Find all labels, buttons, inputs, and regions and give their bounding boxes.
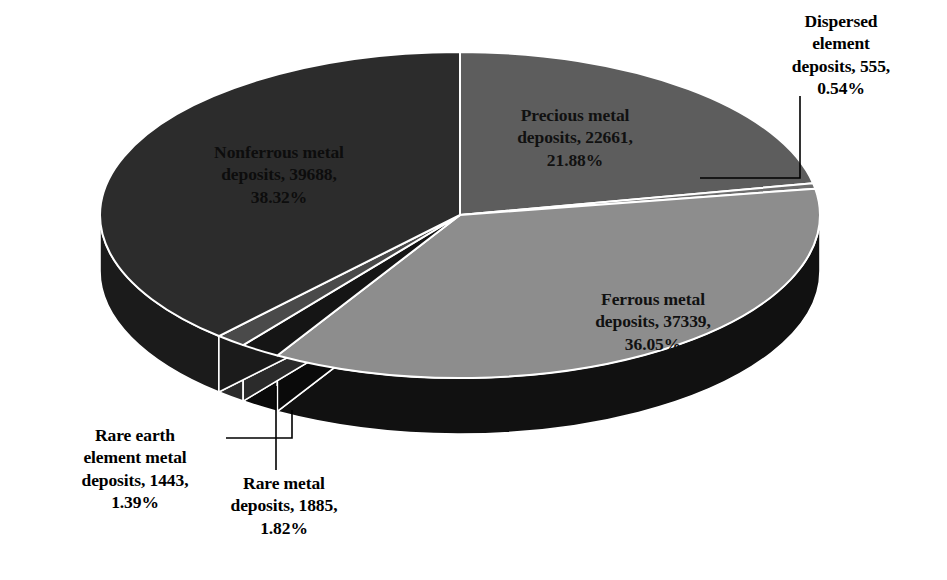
slice-label-nonferrous-metal-deposits: Nonferrous metal deposits, 39688, 38.32% [160,141,398,208]
slice-label-ferrous-metal-deposits: Ferrous metal deposits, 37339, 36.05% [540,288,766,355]
pie-chart-figure: Precious metal deposits, 22661, 21.88% F… [0,0,947,580]
slice-label-rare-metal-deposits: Rare metal deposits, 1885, 1.82% [196,472,372,539]
slice-label-dispersed-element-deposits: Dispersed element deposits, 555, 0.54% [752,10,930,100]
slice-label-precious-metal-deposits: Precious metal deposits, 22661, 21.88% [470,104,680,171]
